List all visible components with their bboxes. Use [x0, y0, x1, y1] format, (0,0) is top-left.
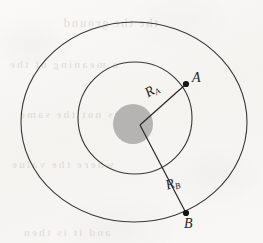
radius-b-line	[140, 125, 186, 213]
point-b-label: B	[184, 216, 193, 232]
point-a-label: A	[192, 70, 201, 86]
point-a-marker	[183, 81, 189, 87]
figure-container: the the ground a meaning of the is not t…	[0, 0, 263, 243]
diagram-svg	[0, 0, 263, 243]
